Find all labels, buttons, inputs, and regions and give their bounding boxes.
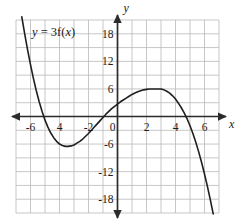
x-tick-label--4: 4: [57, 121, 63, 133]
coordinate-plane: -6 4 -2 0 2 4 6 18 12 6 -6 -12 -18 y x y…: [0, 0, 240, 224]
curve-equation-annotation: y = 3f(x): [30, 25, 75, 39]
y-tick-label-6: 6: [108, 83, 114, 95]
curve-equation-paren: ): [71, 25, 75, 39]
x-tick-label-2: 2: [144, 121, 150, 133]
y-axis-label: y: [123, 1, 130, 15]
x-axis-label: x: [228, 117, 235, 131]
curve-equation-middle: = 3f(: [38, 25, 66, 39]
x-tick-label--2: -2: [84, 121, 94, 133]
x-tick-label-6: 6: [202, 121, 208, 133]
y-tick-label--18: -18: [98, 193, 114, 205]
y-tick-label--6: -6: [104, 138, 114, 150]
y-tick-label-12: 12: [102, 55, 114, 67]
y-tick-label--12: -12: [98, 166, 114, 178]
y-tick-label-18: 18: [102, 28, 114, 40]
graph-figure: -6 4 -2 0 2 4 6 18 12 6 -6 -12 -18 y x y…: [0, 0, 240, 224]
x-tick-label--6: -6: [26, 121, 36, 133]
x-tick-label-0: 0: [110, 121, 116, 133]
x-tick-label-4: 4: [173, 121, 179, 133]
